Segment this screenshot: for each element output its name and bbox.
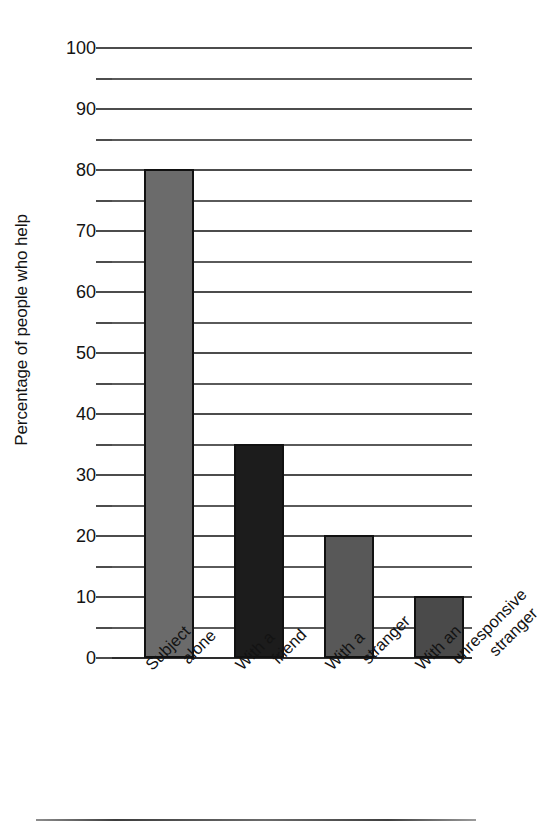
y-axis-tick-mark-minor — [96, 261, 112, 263]
y-axis-tick-mark-minor — [96, 444, 112, 446]
y-axis-title-text: Percentage of people who help — [12, 214, 32, 446]
y-axis-tick-label: 40 — [76, 405, 96, 423]
y-axis-tick-mark — [96, 230, 112, 232]
y-axis-tick-mark — [96, 413, 112, 415]
y-axis-tick-label: 50 — [76, 344, 96, 362]
y-axis-tick-mark-minor — [96, 627, 112, 629]
y-axis-tick-label: 70 — [76, 222, 96, 240]
y-axis-tick-mark — [96, 169, 112, 171]
y-axis-tick-mark-minor — [96, 505, 112, 507]
y-axis-tick-label: 20 — [76, 527, 96, 545]
plot-area — [112, 48, 472, 658]
y-axis-tick-mark — [96, 535, 112, 537]
y-axis-tick-label: 0 — [86, 649, 96, 667]
y-axis-tick-mark-minor — [96, 139, 112, 141]
y-axis-tick-mark — [96, 657, 112, 659]
y-axis-tick-mark-minor — [96, 383, 112, 385]
y-axis-tick-label: 30 — [76, 466, 96, 484]
y-axis-tick-label: 100 — [66, 39, 96, 57]
y-axis-tick-mark — [96, 291, 112, 293]
y-axis-tick-mark-minor — [96, 200, 112, 202]
y-axis-ticks — [96, 48, 112, 658]
gridline-minor — [112, 78, 472, 80]
gridline-major — [112, 47, 472, 49]
gridline-major — [112, 108, 472, 110]
bottom-divider-rule — [36, 819, 476, 821]
bar — [144, 169, 194, 658]
y-axis-tick-label: 10 — [76, 588, 96, 606]
y-axis-tick-label: 80 — [76, 161, 96, 179]
y-axis-tick-mark — [96, 596, 112, 598]
y-axis-tick-mark — [96, 108, 112, 110]
y-axis-title: Percentage of people who help — [0, 0, 44, 660]
y-axis-tick-label: 60 — [76, 283, 96, 301]
y-axis-tick-mark — [96, 474, 112, 476]
x-axis-tick-labels: SubjectaloneWith afriendWith astrangerWi… — [112, 660, 502, 800]
y-axis-tick-mark — [96, 47, 112, 49]
y-axis-tick-label: 90 — [76, 100, 96, 118]
y-axis-tick-mark-minor — [96, 322, 112, 324]
y-axis-tick-mark — [96, 352, 112, 354]
y-axis-tick-mark-minor — [96, 566, 112, 568]
gridline-minor — [112, 139, 472, 141]
y-axis-tick-mark-minor — [96, 78, 112, 80]
